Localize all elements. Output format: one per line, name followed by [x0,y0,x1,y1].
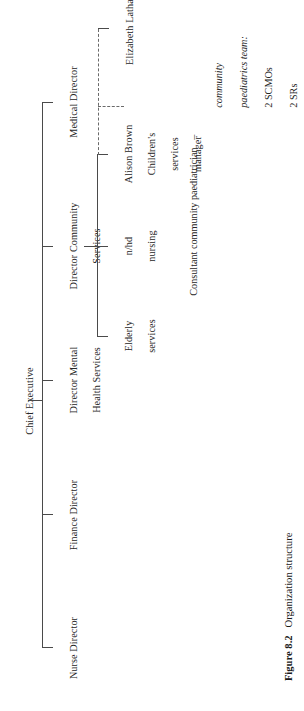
node-nurse-director: Nurse Director [56,596,79,700]
annotation-lead: Consultant community paediatrician [188,147,199,295]
connector-spine-end-left [42,647,53,648]
connector-drop-elizabeth [98,28,109,29]
node-elizabeth-latham: Elizabeth Latham [112,0,135,91]
node-chief-executive-label: Chief Executive [24,367,35,434]
connector-dotted-medical-to-alison [98,106,124,107]
annotation-dash: – [188,135,199,140]
figure-caption: Figure 8.2 Organization structure [272,533,304,697]
connector-main-spine [42,102,43,648]
annotation-team-member-1: 2 SCMOs [263,67,274,107]
node-chief-executive: Chief Executive [12,341,35,461]
connector-drop-finance [42,514,53,515]
node-alison-brown-name: Alison Brown [123,125,134,184]
connector-drop-community [42,246,53,247]
node-elderly-services-line1: Elderly [123,321,134,352]
node-medical-director-label: Medical Director [68,66,79,137]
node-director-mental-health-services-line1: Director Mental [68,347,79,414]
node-alison-brown-line2: Children's [146,133,157,175]
annotation-consultant-paediatrics-team: Consultant community paediatrician – com… [176,36,304,311]
org-chart-canvas: Chief Executive Nurse Director Finance D… [0,0,304,711]
annotation-team-title-line1: community [213,63,224,108]
connector-community-stub [84,246,97,247]
node-nhd-nursing-line1: n/hd [123,237,134,256]
node-director-community-services-line1: Director Community [68,203,79,290]
node-director-mental-health-services: Director Mental Health Services [56,324,102,436]
connector-spine-end-right [42,102,53,103]
node-nhd-nursing-line2: nursing [146,230,157,261]
connector-drop-mental [42,380,53,381]
node-medical-director: Medical Director [56,49,79,155]
node-finance-director-label: Finance Director [68,480,79,550]
connector-drop-elderly [97,336,108,337]
node-finance-director: Finance Director [56,463,79,567]
connector-drop-nhd [97,246,108,247]
connector-dotted-medical-to-elizabeth [98,29,99,155]
node-elizabeth-latham-label: Elizabeth Latham [124,0,135,65]
node-director-mental-health-services-line2: Health Services [91,347,102,413]
node-elderly-services-line2: services [146,319,157,353]
figure-caption-text: Organization structure [283,533,294,628]
node-nurse-director-label: Nurse Director [68,617,79,679]
node-nhd-nursing: n/hd nursing [111,209,157,283]
annotation-team-member-2: 2 SRs [288,84,299,108]
annotation-team-title-line2: paediatrics team: [238,36,249,108]
node-elderly-services: Elderly services [111,299,157,373]
figure-page: Chief Executive Nurse Director Finance D… [0,0,304,711]
figure-caption-number: Figure 8.2 [283,635,294,681]
connector-chief-stub [28,400,42,401]
